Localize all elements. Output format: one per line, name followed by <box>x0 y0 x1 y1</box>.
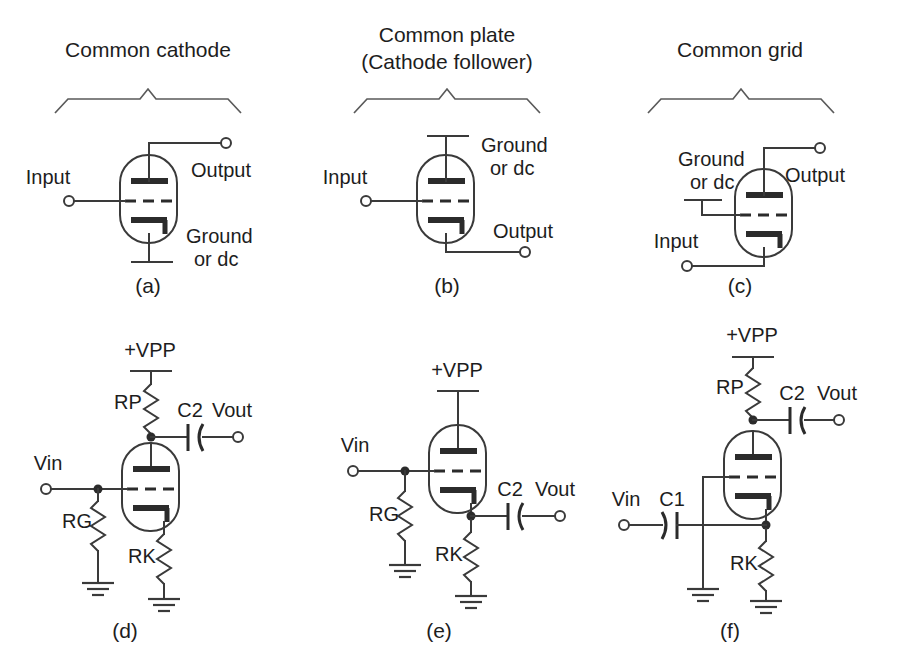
panel-c-input-label: Input <box>654 230 699 252</box>
panel-c-input-wire <box>692 248 764 266</box>
panel-f: +VPP RP C2 Vout <box>612 324 858 642</box>
panel-b-brace <box>354 89 540 113</box>
panel-e-ground-symbol-rk <box>455 596 487 608</box>
panel-e-supply-label: +VPP <box>431 359 483 381</box>
panel-a-id: (a) <box>135 274 161 297</box>
panel-f-vin-terminal[interactable] <box>619 520 629 530</box>
panel-c-output-terminal[interactable] <box>815 143 825 153</box>
panel-b-input-label: Input <box>323 166 368 188</box>
panel-a-input-label: Input <box>26 166 71 188</box>
panel-a-input-terminal[interactable] <box>64 196 74 206</box>
panel-a-output-terminal[interactable] <box>221 138 231 148</box>
panel-f-vout-label: Vout <box>817 382 857 404</box>
panel-d-rk-resistor <box>157 534 171 584</box>
panel-f-c2-label: C2 <box>779 382 805 404</box>
panel-d-vin-terminal[interactable] <box>41 484 51 494</box>
panel-f-rk-label: RK <box>730 552 758 574</box>
panel-e-id: (e) <box>426 619 452 642</box>
panel-d-supply-label: +VPP <box>124 339 176 361</box>
panel-e-vin-label: Vin <box>341 434 370 456</box>
panel-f-ground-symbol-grid <box>687 589 719 601</box>
panel-d-id: (d) <box>112 619 138 642</box>
panel-d-ground-symbol-rk <box>148 599 180 611</box>
panel-e-vout-terminal[interactable] <box>555 511 565 521</box>
panel-f-ground-symbol-rk <box>750 601 782 613</box>
panel-d-vout-label: Vout <box>212 399 252 421</box>
panel-e-c2-label: C2 <box>497 478 523 500</box>
panel-c-ground-label: Ground <box>678 148 745 170</box>
panel-d: +VPP RP C2 Vout <box>34 339 253 642</box>
panel-f-vout-terminal[interactable] <box>834 415 844 425</box>
panel-d-rg-label: RG <box>62 510 92 532</box>
panel-e-rk-resistor <box>464 532 478 582</box>
figure-root: Common cathode Output Input Ground <box>0 0 899 671</box>
panel-b-ground-label: Ground <box>481 134 548 156</box>
panel-a-title: Common cathode <box>65 38 231 61</box>
panel-d-rp-resistor <box>144 384 158 434</box>
panel-d-rk-label: RK <box>128 545 156 567</box>
circuit-figure-canvas: Common cathode Output Input Ground <box>0 0 899 671</box>
panel-c-title: Common grid <box>677 38 803 61</box>
panel-e: +VPP Vin RG <box>341 359 576 642</box>
panel-f-vin-label: Vin <box>612 488 641 510</box>
panel-b-title-line2: (Cathode follower) <box>361 50 533 73</box>
panel-e-rg-resistor <box>398 491 412 541</box>
panel-a-ground-label-2: or dc <box>194 248 238 270</box>
panel-d-rp-label: RP <box>114 391 142 413</box>
panel-e-vin-terminal[interactable] <box>348 466 358 476</box>
panel-b-input-terminal[interactable] <box>361 196 371 206</box>
panel-c-ground-label-2: or dc <box>690 171 734 193</box>
panel-f-c1-label: C1 <box>659 488 685 510</box>
panel-b-output-label: Output <box>493 220 553 242</box>
panel-c-id: (c) <box>728 274 753 297</box>
panel-a: Common cathode Output Input Ground <box>26 38 253 297</box>
panel-a-output-label: Output <box>191 159 251 181</box>
panel-f-rp-resistor <box>746 368 760 418</box>
panel-b-output-terminal[interactable] <box>520 247 530 257</box>
panel-b-ground-label-2: or dc <box>490 157 534 179</box>
panel-b: Common plate (Cathode follower) Ground o… <box>323 23 554 297</box>
panel-e-ground-symbol-rg <box>389 565 421 577</box>
panel-b-id: (b) <box>434 274 460 297</box>
panel-d-rg-resistor <box>91 501 105 551</box>
panel-d-c2-label: C2 <box>177 399 203 421</box>
panel-e-rk-label: RK <box>435 543 463 565</box>
panel-a-ground-label: Ground <box>186 225 253 247</box>
panel-c-input-terminal[interactable] <box>682 261 692 271</box>
panel-c-brace <box>648 89 834 113</box>
panel-a-brace <box>55 89 241 113</box>
panel-d-vin-label: Vin <box>34 452 63 474</box>
panel-d-vout-terminal[interactable] <box>233 432 243 442</box>
panel-f-supply-label: +VPP <box>726 324 778 346</box>
panel-c-output-label: Output <box>785 164 845 186</box>
panel-c: Common grid Output Ground or dc Input (c… <box>648 38 845 297</box>
panel-b-title: Common plate <box>379 23 516 46</box>
panel-f-rp-label: RP <box>716 376 744 398</box>
panel-e-rg-label: RG <box>369 503 399 525</box>
panel-f-rk-resistor <box>759 541 773 591</box>
panel-e-vout-label: Vout <box>535 478 575 500</box>
panel-d-ground-symbol-rg <box>82 583 114 595</box>
panel-f-id: (f) <box>720 619 740 642</box>
